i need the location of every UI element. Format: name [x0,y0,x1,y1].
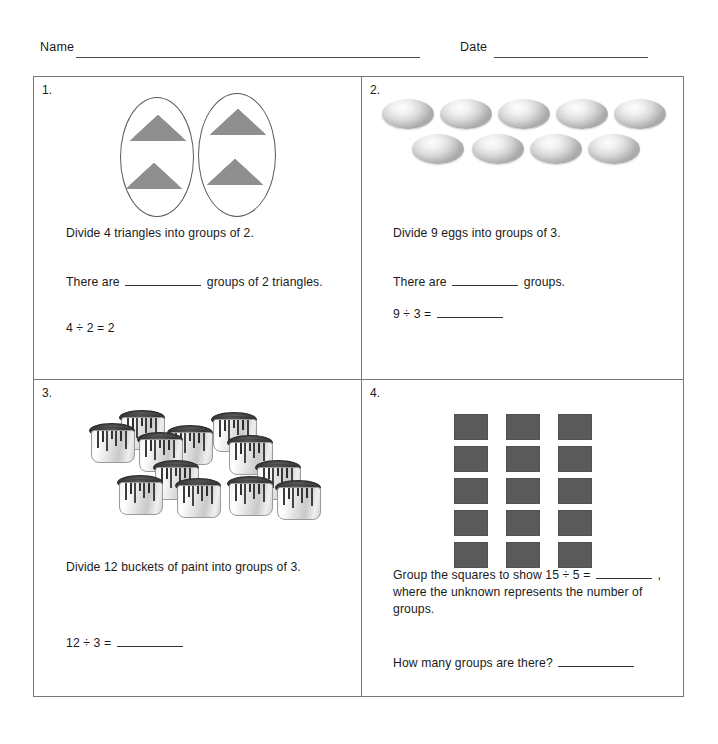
paint-bucket [117,475,163,515]
answer-blank[interactable] [125,273,201,286]
paint-bucket [175,478,221,518]
egg-shape [614,99,666,129]
egg-shape [472,134,524,164]
square-shape [506,542,540,568]
answer-blank[interactable] [596,566,652,579]
egg-shape [498,99,550,129]
date-label: Date [460,40,487,54]
answer-blank[interactable] [117,634,183,647]
worksheet-header: Name Date [0,38,718,64]
problem-equation-1: 4 ÷ 2 = 2 [66,320,115,337]
paint-bucket [275,480,321,520]
problem-cell-3: 3. [34,379,361,696]
problem-prompt-3: Divide 12 buckets of paint into groups o… [66,559,356,576]
problem-number-1: 1. [42,83,52,97]
paint-bucket [227,476,273,516]
eggs-illustration [382,99,672,171]
date-write-line[interactable] [494,57,648,58]
squares-array-illustration [454,414,592,568]
problem-cell-1: 1. Divide 4 triangles into groups of 2. … [34,77,361,379]
triangle-shape [134,115,182,137]
square-shape [558,542,592,568]
problem-number-2: 2. [370,83,380,97]
problem-prompt-2: Divide 9 eggs into groups of 3. [393,225,673,242]
answer-blank[interactable] [452,273,518,286]
problem-fill-sentence-2: There are groups. [393,273,678,291]
egg-shape [588,134,640,164]
problem-cell-4: 4. Group the squares to show 15 ÷ 5 = , … [361,379,683,696]
name-label: Name [40,40,74,54]
triangle-shape [130,163,178,185]
square-shape [454,478,488,504]
square-shape [454,446,488,472]
egg-shape [530,134,582,164]
square-shape [454,414,488,440]
paint-buckets-illustration [79,410,329,528]
triangle-shape [212,109,264,133]
square-shape [558,478,592,504]
problem-question-4: How many groups are there? [393,654,683,672]
sentence-prefix: There are [66,275,120,289]
square-shape [454,542,488,568]
problem-equation-3: 12 ÷ 3 = [66,634,185,652]
equation-prefix: 9 ÷ 3 = [393,307,431,321]
equation-prefix: 12 ÷ 3 = [66,636,111,650]
square-shape [454,510,488,536]
problem-equation-2: 9 ÷ 3 = [393,305,505,323]
problem-number-3: 3. [42,386,52,400]
problem-prompt-1: Divide 4 triangles into groups of 2. [66,225,346,242]
problem-fill-sentence-1: There are groups of 2 triangles. [66,273,351,291]
problem-number-4: 4. [370,386,380,400]
prompt-part-1: Group the squares to show 15 ÷ 5 = [393,568,590,582]
answer-blank[interactable] [558,654,634,667]
triangle-shape [210,159,260,182]
sentence-suffix: groups. [524,275,565,289]
square-shape [506,510,540,536]
question-text: How many groups are there? [393,656,553,670]
square-shape [506,478,540,504]
sentence-prefix: There are [393,275,447,289]
square-shape [506,446,540,472]
egg-shape [440,99,492,129]
square-shape [506,414,540,440]
triangles-in-ovals-illustration [90,93,300,221]
sentence-suffix: groups of 2 triangles. [207,275,323,289]
name-write-line[interactable] [76,57,420,58]
egg-shape [556,99,608,129]
problem-prompt-4: Group the squares to show 15 ÷ 5 = , whe… [393,566,683,618]
problem-cell-2: 2. Divide 9 eggs into groups of 3. There… [361,77,683,379]
square-shape [558,510,592,536]
square-shape [558,446,592,472]
paint-bucket [89,423,135,463]
answer-blank[interactable] [437,305,503,318]
egg-shape [412,134,464,164]
square-shape [558,414,592,440]
egg-shape [382,99,434,129]
worksheet-table: 1. Divide 4 triangles into groups of 2. … [33,76,684,697]
